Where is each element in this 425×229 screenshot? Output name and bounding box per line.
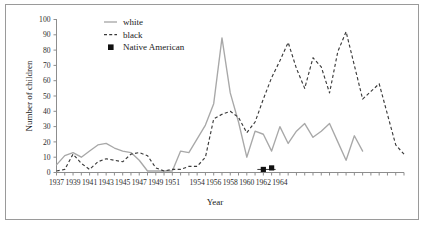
x-tick-label: 1949 — [148, 178, 163, 187]
y-tick-label: 60 — [43, 76, 51, 85]
x-tick-label: 1941 — [82, 178, 97, 187]
x-tick-label: 1956 — [206, 178, 221, 187]
x-tick-label: 1962 — [256, 178, 271, 187]
y-tick-label: 100 — [39, 15, 51, 24]
series-markers-native-american — [257, 165, 275, 172]
x-tick-label: 1945 — [115, 178, 130, 187]
data-series-layer — [57, 32, 405, 172]
x-tick-label: 1951 — [165, 178, 180, 187]
x-tick-label: 1954 — [190, 178, 205, 187]
x-tick-label: 1960 — [239, 178, 254, 187]
chart-plot-area: 0102030405060708090100 19371939194119431… — [0, 0, 425, 229]
legend-swatch-native-american — [108, 44, 114, 50]
y-tick-label: 10 — [43, 153, 51, 162]
y-tick-label: 80 — [43, 46, 51, 55]
x-axis: 1937193919411943194519471949195119541956… — [49, 173, 404, 187]
y-tick-label: 90 — [43, 30, 51, 39]
legend-label: white — [123, 17, 143, 27]
x-tick-labels: 1937193919411943194519471949195119541956… — [49, 178, 288, 187]
series-line-black — [57, 32, 405, 171]
legend-label: Native American — [123, 42, 185, 52]
x-axis-title: Year — [207, 197, 224, 207]
x-tick-label: 1947 — [132, 178, 147, 187]
y-tick-label: 0 — [47, 168, 51, 177]
series-line-white — [57, 38, 363, 171]
chart-legend: whiteblackNative American — [104, 17, 185, 52]
y-axis-title: Number of children — [24, 60, 34, 131]
y-tick-label: 70 — [43, 61, 51, 70]
y-axis: 0102030405060708090100 — [39, 15, 56, 177]
y-tick-labels: 0102030405060708090100 — [39, 15, 51, 177]
x-tick-label: 1964 — [272, 178, 287, 187]
x-tick-label: 1939 — [65, 178, 80, 187]
y-tick-label: 40 — [43, 107, 51, 116]
x-tick-label: 1937 — [49, 178, 64, 187]
native-american-marker — [269, 165, 274, 170]
y-tick-label: 20 — [43, 138, 51, 147]
x-tick-label: 1958 — [223, 178, 238, 187]
x-tick-label: 1943 — [99, 178, 114, 187]
legend-label: black — [123, 30, 143, 40]
chart-figure: 0102030405060708090100 19371939194119431… — [0, 0, 425, 229]
y-tick-label: 50 — [43, 92, 51, 101]
native-american-marker — [261, 167, 266, 172]
y-tick-label: 30 — [43, 122, 51, 131]
